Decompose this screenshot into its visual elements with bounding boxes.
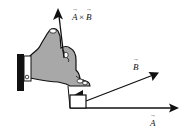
cross-label-b: B — [86, 12, 92, 22]
hand-icon — [17, 29, 90, 91]
right-hand-rule-diagram: → → A × B → B → A — [0, 0, 188, 131]
vector-a-label: A — [149, 118, 156, 128]
vector-b — [86, 72, 159, 101]
label-a-cross-b: → → A × B — [71, 6, 92, 22]
origin-box — [68, 86, 86, 108]
vector-b-label: B — [133, 62, 139, 72]
label-vector-a: → A — [149, 112, 156, 128]
cross-label-a: A — [71, 12, 78, 22]
label-vector-b: → B — [133, 56, 139, 72]
cross-label-times: × — [79, 12, 84, 22]
